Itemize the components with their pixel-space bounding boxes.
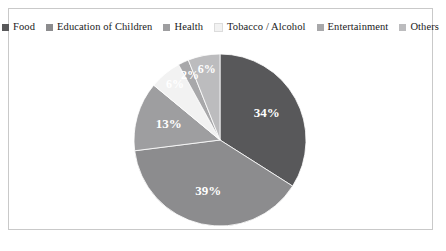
legend-item-label: Others xyxy=(410,22,439,33)
chart-legend: FoodEducation of ChildrenHealthTobacco /… xyxy=(9,22,432,33)
legend-item[interactable]: Entertainment xyxy=(317,22,389,33)
legend-item-label: Entertainment xyxy=(328,22,389,33)
legend-item-label: Health xyxy=(174,22,203,33)
legend-swatch-icon xyxy=(214,23,223,32)
legend-item-label: Education of Children xyxy=(57,22,152,33)
legend-swatch-icon xyxy=(163,24,170,31)
legend-swatch-icon xyxy=(399,24,406,31)
legend-item[interactable]: Tobacco / Alcohol xyxy=(214,22,306,33)
legend-swatch-icon xyxy=(2,24,9,31)
legend-item-label: Food xyxy=(13,22,35,33)
legend-swatch-icon xyxy=(317,24,324,31)
legend-item-label: Tobacco / Alcohol xyxy=(227,22,306,33)
legend-item[interactable]: Food xyxy=(2,22,35,33)
legend-item[interactable]: Education of Children xyxy=(46,22,152,33)
legend-item[interactable]: Health xyxy=(163,22,203,33)
legend-item[interactable]: Others xyxy=(399,22,439,33)
chart-frame: FoodEducation of ChildrenHealthTobacco /… xyxy=(8,8,433,230)
legend-swatch-icon xyxy=(46,24,53,31)
